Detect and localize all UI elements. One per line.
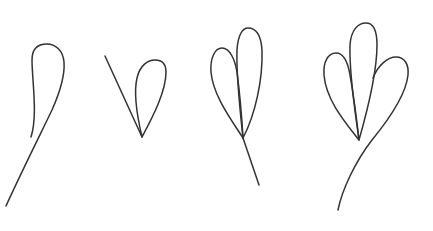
figure-4-center-petal [350,23,377,140]
figure-1-stem-and-loop [6,44,64,206]
drawing-canvas [0,0,433,231]
figure-2-single-petal [105,56,166,137]
figure-1-single-loop [6,44,64,206]
figure-3-stem [243,138,259,185]
figure-2-petal [136,60,166,137]
figure-4-three-petals [324,23,408,210]
figure-3-two-petals [211,28,262,185]
figure-2-line [105,56,142,137]
figure-3-right-petal [237,28,262,138]
